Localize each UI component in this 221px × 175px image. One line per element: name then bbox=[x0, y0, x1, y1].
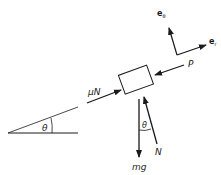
incline-angle-label: θ bbox=[42, 123, 48, 133]
block bbox=[118, 65, 153, 94]
e-r-label: er bbox=[209, 37, 217, 47]
normal-force-label: N bbox=[155, 147, 162, 157]
weight-label: mg bbox=[132, 162, 147, 172]
e-theta-arrow bbox=[169, 28, 177, 55]
diagram-svg: θ μN P mg N θ eθ er bbox=[0, 0, 221, 175]
basis-vectors: eθ er bbox=[157, 9, 217, 55]
incline: θ bbox=[8, 107, 78, 133]
friction-label: μN bbox=[87, 87, 101, 97]
push-force-arrow bbox=[155, 65, 184, 75]
free-body-diagram: θ μN P mg N θ eθ er bbox=[0, 0, 221, 175]
push-force-label: P bbox=[188, 59, 194, 69]
e-r-arrow bbox=[177, 45, 206, 55]
incline-angle-arc bbox=[51, 118, 52, 133]
e-theta-label: eθ bbox=[157, 9, 166, 19]
normal-angle-label: θ bbox=[142, 121, 147, 130]
